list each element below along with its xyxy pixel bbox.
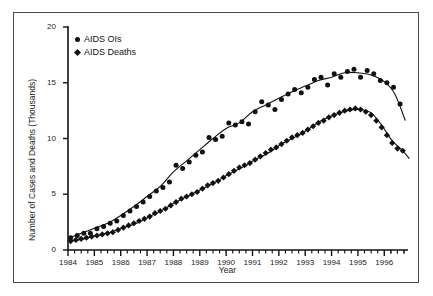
trend-line-aids-deaths bbox=[71, 109, 410, 241]
data-point bbox=[305, 85, 310, 90]
data-point bbox=[352, 105, 358, 111]
data-point bbox=[210, 180, 216, 186]
data-point bbox=[325, 82, 330, 87]
data-point bbox=[279, 97, 284, 102]
data-point bbox=[127, 208, 132, 213]
data-point bbox=[384, 80, 389, 85]
data-point bbox=[312, 77, 317, 82]
data-point bbox=[160, 185, 165, 190]
data-point bbox=[187, 159, 192, 164]
data-point bbox=[200, 149, 205, 154]
data-point bbox=[101, 224, 106, 229]
data-point bbox=[94, 226, 99, 231]
data-point bbox=[173, 199, 179, 205]
data-point bbox=[379, 124, 385, 130]
data-point bbox=[154, 188, 159, 193]
data-point bbox=[226, 171, 232, 177]
data-point bbox=[305, 126, 311, 132]
data-point bbox=[391, 85, 396, 90]
data-point bbox=[336, 110, 342, 116]
data-point bbox=[114, 219, 119, 224]
data-point bbox=[193, 153, 198, 158]
data-point bbox=[199, 186, 205, 192]
data-point bbox=[253, 109, 258, 114]
data-point bbox=[252, 157, 258, 163]
data-point bbox=[365, 68, 370, 73]
data-point bbox=[347, 106, 353, 112]
data-point bbox=[368, 112, 374, 118]
data-point bbox=[207, 135, 212, 140]
data-point bbox=[220, 134, 225, 139]
data-point bbox=[332, 71, 337, 76]
series-aids-ois bbox=[68, 67, 402, 240]
data-point bbox=[246, 122, 251, 127]
trend-line-aids-ois bbox=[71, 72, 406, 237]
figure-container: Number of Cases and Deaths (Thousands) Y… bbox=[0, 0, 433, 296]
data-point bbox=[233, 123, 238, 128]
data-point bbox=[259, 99, 264, 104]
data-point bbox=[326, 114, 332, 120]
data-point bbox=[180, 166, 185, 171]
data-point bbox=[398, 101, 403, 106]
data-point bbox=[134, 204, 139, 209]
data-point bbox=[278, 141, 284, 147]
data-point bbox=[357, 106, 363, 112]
data-point bbox=[108, 221, 113, 226]
data-point bbox=[345, 69, 350, 74]
data-point bbox=[174, 163, 179, 168]
data-point bbox=[110, 229, 116, 235]
data-point bbox=[378, 78, 383, 83]
data-point bbox=[226, 120, 231, 125]
data-point bbox=[266, 103, 271, 108]
data-point bbox=[184, 193, 190, 199]
data-point bbox=[121, 213, 126, 218]
data-point bbox=[373, 118, 379, 124]
data-point bbox=[389, 140, 395, 146]
data-point bbox=[319, 75, 324, 80]
data-point bbox=[75, 233, 80, 238]
data-point bbox=[120, 225, 126, 231]
data-point bbox=[147, 194, 152, 199]
data-point bbox=[299, 130, 305, 136]
data-point bbox=[81, 231, 86, 236]
data-point bbox=[167, 179, 172, 184]
data-point bbox=[286, 91, 291, 96]
data-point bbox=[351, 67, 356, 72]
data-point bbox=[371, 71, 376, 76]
data-point bbox=[104, 230, 110, 236]
data-point bbox=[99, 231, 105, 237]
data-point bbox=[141, 200, 146, 205]
data-point bbox=[126, 222, 132, 228]
data-point bbox=[239, 119, 244, 124]
data-point bbox=[358, 75, 363, 80]
data-point bbox=[94, 232, 100, 238]
data-point bbox=[338, 75, 343, 80]
data-point bbox=[157, 208, 163, 214]
data-point bbox=[115, 227, 121, 233]
data-point bbox=[189, 191, 195, 197]
data-point bbox=[272, 107, 277, 112]
data-point bbox=[292, 87, 297, 92]
data-point bbox=[331, 112, 337, 118]
data-point bbox=[268, 147, 274, 153]
data-point bbox=[213, 137, 218, 142]
data-point bbox=[394, 145, 400, 151]
plot-area bbox=[0, 0, 433, 296]
data-point bbox=[299, 90, 304, 95]
data-point bbox=[147, 213, 153, 219]
data-point bbox=[342, 108, 348, 114]
